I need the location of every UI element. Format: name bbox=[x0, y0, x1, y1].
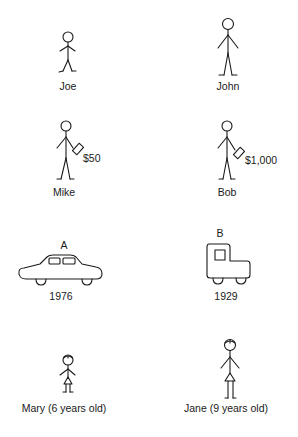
jane-label: Jane (9 years old) bbox=[184, 402, 268, 414]
girl-stick-figure-icon bbox=[0, 0, 298, 437]
